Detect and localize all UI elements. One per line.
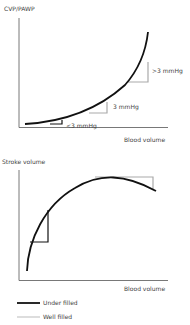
legend-well-filled-label: Well filled [43,314,72,320]
bottom-chart-x-label: Blood volume [124,286,165,292]
top-chart-axes [19,18,168,128]
top-chart-y-label: CVP/PAWP [4,6,35,12]
top-chart-annotation-high: >3 mmHg [152,68,183,74]
bottom-chart-y-label: Stroke volume [2,159,45,165]
top-chart-annotation-mid: 3 mmHg [113,104,139,110]
top-chart-curve [25,32,148,124]
legend-under-filled-label: Under filled [43,300,78,306]
bottom-chart-curve [27,177,156,271]
top-chart-x-label: Blood volume [124,137,165,143]
top-chart-annotation-low: <3 mmHg [66,123,97,129]
